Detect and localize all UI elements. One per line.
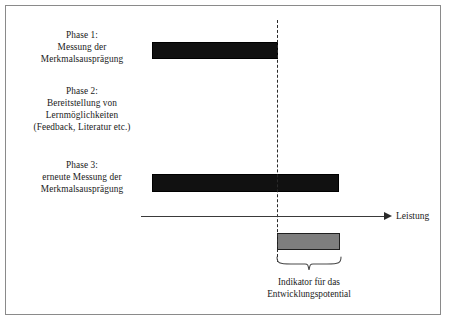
- phase-1-measurement-bar: [152, 42, 278, 59]
- axis-label: Leistung: [396, 211, 429, 221]
- performance-axis-line: [141, 216, 386, 217]
- development-potential-bar: [277, 233, 340, 250]
- curly-brace-icon: [275, 256, 343, 272]
- phase-3-label-line-2: erneute Messung der: [12, 171, 152, 183]
- phase-3-label-line-3: Merkmalsausprägung: [12, 183, 152, 195]
- figure-container: Phase 1: Messung der Merkmalsausprägung …: [0, 0, 450, 328]
- phase-3-label: Phase 3: erneute Messung der Merkmalsaus…: [12, 159, 152, 195]
- phase-2-label: Phase 2: Bereitstellung von Lernmöglichk…: [12, 85, 152, 133]
- phase-1-label-line-1: Phase 1:: [12, 29, 152, 41]
- phase-1-label-line-2: Messung der: [12, 41, 152, 53]
- phase-2-label-line-2: Bereitstellung von: [12, 97, 152, 109]
- phase-2-label-line-1: Phase 2:: [12, 85, 152, 97]
- phase-2-label-line-4: (Feedback, Literatur etc.): [12, 121, 152, 133]
- axis-arrow-icon: [384, 212, 392, 220]
- indicator-caption-line-2: Entwicklungspotential: [229, 288, 389, 300]
- indicator-caption: Indikator für das Entwicklungspotential: [229, 276, 389, 300]
- phase-1-label-line-3: Merkmalsausprägung: [12, 53, 152, 65]
- phase-3-measurement-bar: [152, 174, 339, 192]
- indicator-caption-line-1: Indikator für das: [229, 276, 389, 288]
- reference-line: [277, 20, 278, 262]
- phase-2-label-line-3: Lernmöglichkeiten: [12, 109, 152, 121]
- phase-3-label-line-1: Phase 3:: [12, 159, 152, 171]
- phase-1-label: Phase 1: Messung der Merkmalsausprägung: [12, 29, 152, 65]
